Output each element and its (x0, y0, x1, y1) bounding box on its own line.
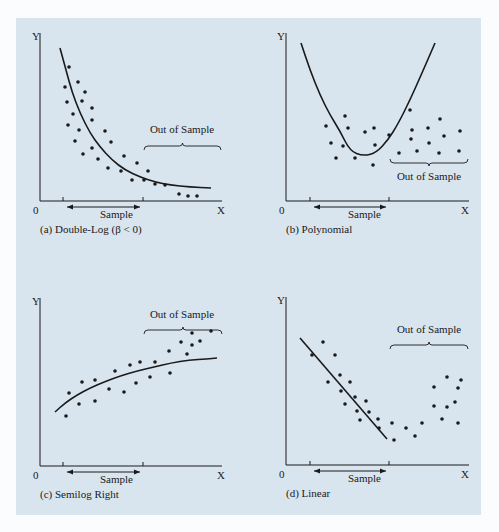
data-point (177, 192, 181, 196)
out-of-sample-label: Out of Sample (150, 123, 214, 135)
data-point (107, 387, 111, 391)
data-point (442, 134, 446, 138)
data-point (321, 340, 325, 344)
data-point (372, 126, 376, 130)
x-axis-label: X (217, 204, 225, 216)
out-of-sample-brace (390, 159, 468, 166)
origin-label: 0 (33, 469, 39, 481)
arrowhead-left-icon (67, 205, 73, 210)
data-point (130, 178, 134, 182)
data-point (128, 363, 132, 367)
data-point (103, 129, 107, 133)
data-point (71, 112, 75, 116)
data-point (93, 378, 97, 382)
data-point (343, 114, 347, 118)
data-point (198, 339, 202, 343)
data-point (456, 386, 460, 390)
data-point (90, 118, 94, 122)
out-of-sample-brace (144, 143, 221, 150)
chart-caption: (b) Polynomial (286, 223, 352, 236)
chart-d: Y0XSampleOut of Sample(d) Linear (277, 294, 469, 500)
data-point (122, 154, 126, 158)
data-point (440, 417, 444, 421)
data-point (458, 129, 462, 133)
arrowhead-left-icon (314, 205, 320, 210)
data-point (348, 380, 352, 384)
arrowhead-left-icon (67, 470, 73, 475)
data-point (371, 163, 375, 167)
out-of-sample-label: Out of Sample (397, 323, 461, 335)
data-point (346, 126, 350, 130)
sample-label: Sample (100, 208, 133, 220)
data-point (167, 349, 171, 353)
sample-label: Sample (348, 208, 381, 220)
data-point (73, 139, 77, 143)
x-axis-label: X (217, 469, 225, 481)
y-axis-label: Y (32, 295, 40, 307)
sample-label: Sample (348, 472, 381, 484)
chart-caption: (c) Semilog Right (40, 488, 119, 501)
data-point (96, 157, 100, 161)
data-point (445, 375, 449, 379)
data-point (334, 156, 338, 160)
data-point (329, 141, 333, 145)
x-axis-label: X (461, 468, 469, 480)
data-point (148, 375, 152, 379)
data-point (432, 385, 436, 389)
data-point (355, 409, 359, 413)
data-point (190, 331, 194, 335)
out-of-sample-brace (390, 342, 468, 349)
data-point (426, 126, 430, 130)
data-point (363, 130, 367, 134)
data-point (353, 156, 357, 160)
data-point (119, 169, 123, 173)
data-point (445, 405, 449, 409)
data-point (326, 380, 330, 384)
fit-curve (301, 43, 435, 155)
data-point (113, 369, 117, 373)
data-point (122, 390, 126, 394)
out-of-sample-label: Out of Sample (150, 308, 214, 320)
data-point (66, 123, 70, 127)
data-point (80, 99, 84, 103)
data-point (142, 178, 146, 182)
chart-caption: (d) Linear (286, 487, 331, 500)
data-point (138, 360, 142, 364)
arrowhead-left-icon (314, 469, 320, 474)
data-point (410, 128, 414, 132)
arrowhead-right-icon (134, 470, 140, 475)
data-point (408, 108, 412, 112)
data-point (67, 65, 71, 69)
origin-label: 0 (279, 204, 285, 216)
figure-svg: Y0XSampleOut of Sample(a) Double-Log (β … (0, 0, 499, 532)
data-point (80, 380, 84, 384)
origin-label: 0 (279, 468, 285, 480)
data-point (67, 391, 71, 395)
data-point (106, 166, 110, 170)
chart-a: Y0XSampleOut of Sample(a) Double-Log (β … (32, 30, 225, 236)
data-point (404, 426, 408, 430)
out-of-sample-label: Out of Sample (397, 170, 461, 182)
data-point (333, 353, 337, 357)
data-point (90, 146, 94, 150)
data-point (456, 421, 460, 425)
data-point (339, 389, 343, 393)
data-point (190, 343, 194, 347)
data-point (146, 169, 150, 173)
data-point (77, 128, 81, 132)
data-point (338, 373, 342, 377)
sample-label: Sample (100, 473, 133, 485)
data-point (453, 400, 457, 404)
data-point (353, 395, 357, 399)
data-point (81, 152, 85, 156)
data-point (392, 438, 396, 442)
data-point (83, 90, 87, 94)
data-point (163, 183, 167, 187)
data-point (437, 151, 441, 155)
data-point (65, 100, 69, 104)
data-point (427, 141, 431, 145)
data-point (185, 352, 189, 356)
data-point (77, 402, 81, 406)
data-point (153, 360, 157, 364)
data-point (109, 140, 113, 144)
